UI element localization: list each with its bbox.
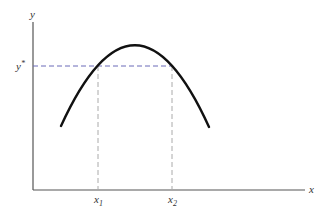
x2-label: x2 [167, 193, 177, 208]
x-axis-label: x [308, 183, 314, 195]
x1-label: x1 [93, 193, 103, 208]
y-star-label: y* [15, 59, 25, 72]
inverted-parabola-curve [61, 45, 209, 127]
diagram-canvas: y x y* x1 x2 [0, 0, 328, 218]
y-axis-label: y [29, 8, 35, 20]
